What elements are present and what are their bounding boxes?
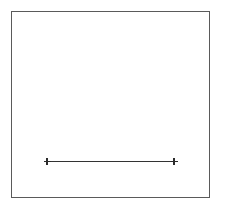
figure-svg [0,0,226,211]
diagram-canvas [0,0,226,211]
bounding-rectangle [12,12,210,198]
